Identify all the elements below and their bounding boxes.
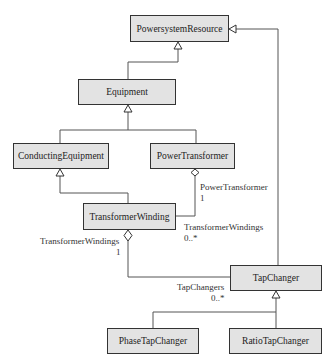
multiplicity-tap-changers: 0..* [211, 293, 225, 303]
multiplicity-transformer-windings-pt: 0..* [184, 233, 198, 243]
multiplicity-power-transformer: 1 [200, 193, 205, 203]
class-label: TransformerWinding [89, 212, 169, 222]
generalization-arrow-icon [56, 169, 64, 176]
pt-winding-aggregation-line [176, 176, 195, 216]
connectors [0, 0, 333, 364]
class-label: PowersystemResource [136, 24, 222, 34]
class-conducting-equipment: ConductingEquipment [13, 143, 109, 169]
class-powersystem-resource: PowersystemResource [130, 15, 229, 42]
class-ratio-tap-changer: RatioTapChanger [229, 328, 322, 354]
class-label: TapChanger [253, 273, 299, 283]
equipment-generalization-line [128, 49, 178, 79]
multiplicity-transformer-windings-tc: 1 [116, 247, 121, 257]
class-label: RatioTapChanger [242, 336, 309, 346]
role-transformer-windings-tc: TransformerWindings [40, 236, 119, 246]
class-label: PhaseTapChanger [119, 336, 187, 346]
tapchanger-subclass-bus [153, 312, 276, 328]
class-power-transformer: PowerTransformer [150, 143, 235, 169]
class-equipment: Equipment [78, 79, 176, 105]
equipment-subclass-bus [60, 130, 196, 143]
aggregation-diamond-icon [191, 169, 199, 176]
aggregation-diamond-icon [124, 230, 132, 241]
generalization-arrow-icon [174, 42, 182, 49]
generalization-arrow-icon [229, 25, 236, 33]
class-phase-tap-changer: PhaseTapChanger [107, 328, 199, 354]
class-label: PowerTransformer [157, 151, 228, 161]
role-tap-changers: TapChangers [177, 282, 224, 292]
class-transformer-winding: TransformerWinding [83, 203, 176, 230]
class-tap-changer: TapChanger [230, 265, 322, 291]
winding-tapchanger-aggregation-line [128, 241, 230, 277]
winding-generalization-line [60, 176, 128, 203]
role-power-transformer: PowerTransformer [200, 182, 268, 192]
class-label: ConductingEquipment [18, 151, 104, 161]
generalization-arrow-icon [272, 291, 280, 298]
role-transformer-windings-pt: TransformerWindings [184, 222, 263, 232]
generalization-arrow-icon [124, 105, 132, 112]
class-label: Equipment [106, 87, 148, 97]
